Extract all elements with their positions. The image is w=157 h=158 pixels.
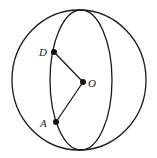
point-O	[80, 79, 86, 85]
label-D: D	[38, 46, 47, 58]
segment-DO	[54, 52, 83, 82]
segment-OA	[56, 82, 83, 122]
point-A	[53, 119, 59, 125]
label-A: A	[39, 117, 47, 129]
label-O: O	[88, 77, 96, 89]
sphere-diagram: D O A	[0, 0, 157, 158]
point-D	[51, 49, 57, 55]
sphere-outline	[12, 10, 146, 150]
